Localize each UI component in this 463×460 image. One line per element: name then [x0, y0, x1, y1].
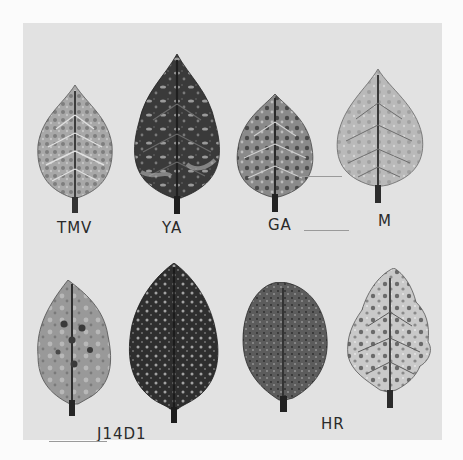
divider-line: [49, 441, 107, 442]
leaf-label-m: M: [378, 212, 392, 230]
leaf-label-tmv: TMV: [57, 219, 92, 237]
leaf-j14d1-b: [126, 263, 222, 423]
leaf-ga: [234, 94, 316, 212]
leaf-label-ya: YA: [162, 219, 182, 237]
leaf-label-ga: GA: [268, 216, 292, 234]
leaf-j14d1-a: [34, 280, 114, 418]
leaf-hr-a: [241, 282, 329, 412]
photo-panel: TMV YA: [23, 23, 442, 440]
leaf-m: [336, 69, 424, 203]
divider-line: [304, 230, 349, 231]
divider-line: [297, 176, 342, 177]
leaf-ya: [131, 54, 223, 214]
leaf-tmv: [36, 85, 114, 213]
leaf-label-hr: HR: [321, 415, 345, 433]
leaf-hr-b: [346, 268, 434, 410]
